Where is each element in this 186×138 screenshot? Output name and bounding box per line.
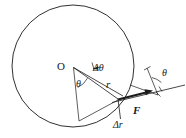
theta-right-label: θ [162,68,167,78]
tangent-reference-line [112,85,185,103]
theta-left-label: θ [76,79,81,89]
delta-theta-label: Δθ [93,63,104,73]
force-label: F [133,105,140,116]
delta-r-label: Δr [113,120,123,130]
theta-reference-line [74,68,80,122]
center-label-O: O [57,61,65,72]
delta-r-line [118,99,121,119]
figure-canvas: O Δθ θ r F Δr θ [0,0,186,138]
wedge-base-line [79,100,118,121]
radius-label: r [106,79,110,90]
main-circle [12,5,134,127]
theta-right-arc [152,78,162,83]
force-vector-arrowhead [145,89,154,95]
